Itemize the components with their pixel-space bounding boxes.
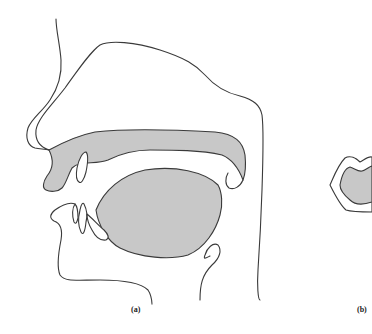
vocal-tract-diagram (0, 0, 372, 334)
face-profile-outline (27, 19, 61, 150)
panel-a (27, 19, 263, 304)
lower-incisor (79, 203, 87, 233)
panel-b (330, 157, 372, 212)
lower-tooth-front (73, 204, 78, 223)
tongue (96, 168, 222, 257)
panel-a-label: (a) (131, 305, 140, 314)
uvula-outline (226, 173, 243, 189)
pharynx-outline (200, 244, 220, 300)
panel-b-label: (b) (357, 305, 367, 314)
